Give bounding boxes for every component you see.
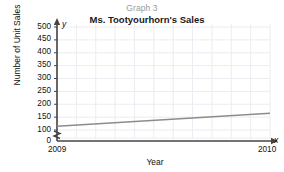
x-tick-label: 2010 <box>258 145 276 154</box>
chart-container: Graph 3 Ms. Tootyourhorn's Sales Number … <box>0 0 284 172</box>
y-tick-label: 500 <box>21 23 51 31</box>
y-tick-label: 300 <box>21 74 51 82</box>
y-tick-label: 350 <box>21 61 51 69</box>
x-axis-arrow-label: x <box>274 135 278 145</box>
x-tick-label: 2009 <box>48 145 66 154</box>
y-tick-label: 150 <box>21 113 51 121</box>
y-axis-arrow-label: y <box>62 19 66 29</box>
y-tick-label: 0 <box>21 137 51 145</box>
grid-lines <box>57 24 270 139</box>
y-tick-label: 400 <box>21 48 51 56</box>
data-series-layer <box>57 113 270 126</box>
y-tick-label: 200 <box>21 100 51 108</box>
y-tick-label: 100 <box>21 126 51 134</box>
axis-lines <box>54 18 278 144</box>
y-tick-label: 250 <box>21 87 51 95</box>
y-tick-label: 450 <box>21 35 51 43</box>
